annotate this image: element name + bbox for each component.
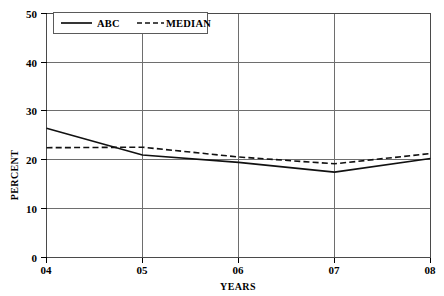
y-tick-label-10: 10 bbox=[26, 203, 38, 215]
chart-container: 50 40 30 20 10 0 PERCENT 04 05 06 07 08 … bbox=[0, 0, 444, 296]
y-tick-label-20: 20 bbox=[26, 154, 38, 166]
legend-label-median: MEDIAN bbox=[166, 18, 211, 29]
y-tick-label-0: 0 bbox=[32, 252, 38, 264]
y-axis-title: PERCENT bbox=[9, 150, 20, 201]
y-tick-label-30: 30 bbox=[26, 105, 38, 117]
x-tick-label-05: 05 bbox=[137, 264, 149, 276]
chart-legend: ABC MEDIAN bbox=[54, 13, 212, 34]
line-chart: 50 40 30 20 10 0 PERCENT 04 05 06 07 08 … bbox=[0, 0, 444, 296]
y-tick-label-40: 40 bbox=[26, 57, 38, 69]
x-axis-title: YEARS bbox=[220, 281, 256, 292]
legend-label-abc: ABC bbox=[97, 18, 120, 29]
x-tick-label-07: 07 bbox=[329, 264, 341, 276]
x-tick-label-04: 04 bbox=[41, 264, 53, 276]
x-tick-label-08: 08 bbox=[425, 264, 437, 276]
x-tick-label-06: 06 bbox=[233, 264, 245, 276]
y-tick-label-50: 50 bbox=[26, 8, 38, 20]
